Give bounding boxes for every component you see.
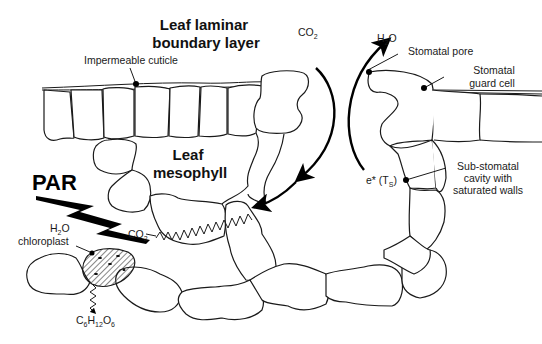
co2-top-label: CO2 — [298, 26, 318, 40]
glucose-path — [90, 284, 96, 312]
boundary-layer-label-2: boundary layer — [152, 34, 260, 51]
cuticle-label: Impermeable cuticle — [84, 54, 178, 66]
co2-left-label: CO2 — [128, 228, 148, 242]
guard-cell-label: Stomatal — [473, 64, 514, 76]
guard-cell-label-2: guard cell — [469, 77, 515, 89]
h2o-top-label: H2O — [377, 32, 397, 46]
glucose-label: C6H12O6 — [76, 314, 115, 328]
stomatal-pore-label: Stomatal pore — [408, 45, 474, 57]
substomatal-label-2: cavity with — [464, 172, 513, 184]
leaf-diagram: Leaf laminar boundary layer Impermeable … — [0, 0, 542, 344]
par-label: PAR — [32, 170, 77, 195]
boundary-layer-label: Leaf laminar — [160, 16, 249, 33]
epidermis-cells — [44, 85, 262, 140]
h2o-left-label: H2O — [50, 222, 70, 236]
substomatal-label: Sub-stomatal — [457, 160, 519, 172]
e-star-label: e* (TS) — [366, 174, 397, 188]
mesophyll-label-2: mesophyll — [153, 164, 227, 181]
h2o-out-arrow — [349, 42, 386, 170]
substomatal-label-3: saturated walls — [453, 184, 523, 196]
mesophyll-label: Leaf — [173, 146, 205, 163]
stomatal-cells — [368, 71, 542, 275]
chloroplast-label: chloroplast — [18, 235, 69, 247]
